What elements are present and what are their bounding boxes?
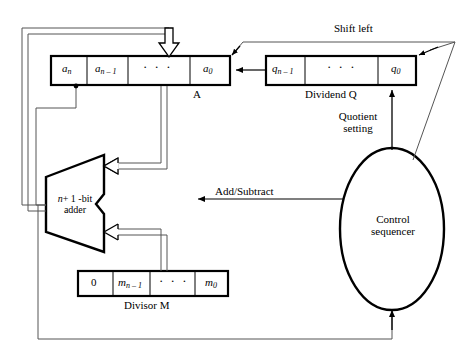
register-a-label: A <box>193 88 201 100</box>
register-q-cell-2: q0 <box>391 62 401 77</box>
register-m-cell-1: mn – 1 <box>118 276 142 291</box>
bus-a-to-adder <box>104 86 167 174</box>
signal-quotient-setting-label: Quotient setting <box>328 110 388 134</box>
bus-m-to-adder <box>104 224 167 271</box>
division-hardware-diagram: an an – 1 · · · a0 A qn – 1 · · · q0 Div… <box>0 0 466 353</box>
diagram-canvas <box>0 0 466 353</box>
register-a-cell-0: an <box>62 62 72 77</box>
register-m-label: Divisor M <box>124 299 170 311</box>
register-q-label: Dividend Q <box>305 88 357 100</box>
register-a-cell-ellipsis: · · · <box>143 60 173 74</box>
register-q-cell-ellipsis: · · · <box>327 60 357 74</box>
register-m-cell-ellipsis: · · · <box>159 274 189 288</box>
signal-add-subtract-label: Add/Subtract <box>215 185 274 197</box>
control-sequencer-label: Control sequencer <box>357 213 429 237</box>
adder-label: n+ 1 -bit adder <box>47 193 103 215</box>
register-m-cell-3: m0 <box>205 276 217 291</box>
register-m-cell-0: 0 <box>91 276 97 288</box>
register-a-cell-3: a0 <box>203 62 213 77</box>
register-a-cell-1: an – 1 <box>95 62 117 77</box>
bus-arrow-into-a <box>159 28 179 57</box>
register-q-cell-0: qn – 1 <box>272 62 294 77</box>
signal-shift-left-label: Shift left <box>334 22 373 34</box>
